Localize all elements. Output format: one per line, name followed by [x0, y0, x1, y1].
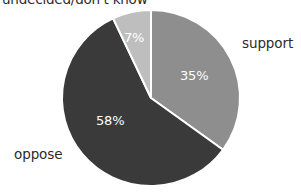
pie-value-undecided: 7%: [124, 30, 144, 45]
pie-slices: [62, 10, 240, 186]
pie-label-support: support: [242, 35, 293, 51]
pie-graphic: [0, 0, 301, 196]
pie-label-oppose: oppose: [14, 146, 62, 162]
pie-value-support: 35%: [180, 68, 208, 83]
pie-value-oppose: 58%: [96, 113, 124, 128]
pie-chart: undecided/don't know support oppose 35% …: [0, 0, 301, 196]
